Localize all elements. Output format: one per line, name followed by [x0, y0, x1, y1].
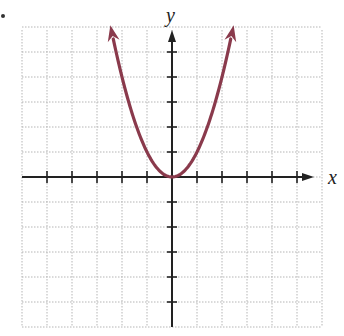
axes	[22, 30, 314, 327]
coordinate-plane: x y	[0, 0, 344, 336]
x-axis-label: x	[327, 166, 337, 188]
bullet-marker	[1, 14, 5, 18]
parabola-graph: x y	[0, 0, 344, 336]
y-axis-label: y	[164, 4, 175, 27]
